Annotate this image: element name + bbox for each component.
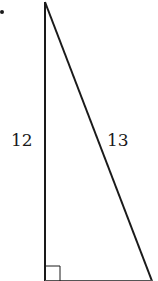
vertical-leg-label: 12 — [11, 132, 33, 149]
hypotenuse — [45, 2, 152, 281]
right-angle-marker — [46, 266, 60, 281]
hypotenuse-label: 13 — [107, 132, 129, 149]
